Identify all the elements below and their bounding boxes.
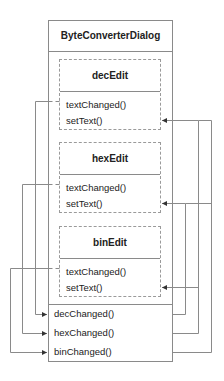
connection-lines [0, 0, 224, 381]
wire-hex-textchanged-to-hexchanged [23, 185, 60, 334]
wire-binchanged-to-settext [173, 121, 212, 353]
wire-hexchanged-to-settext [162, 121, 199, 334]
wire-dec-textchanged-to-decchanged [36, 102, 60, 315]
wire-decchanged-to-settext [162, 204, 186, 315]
